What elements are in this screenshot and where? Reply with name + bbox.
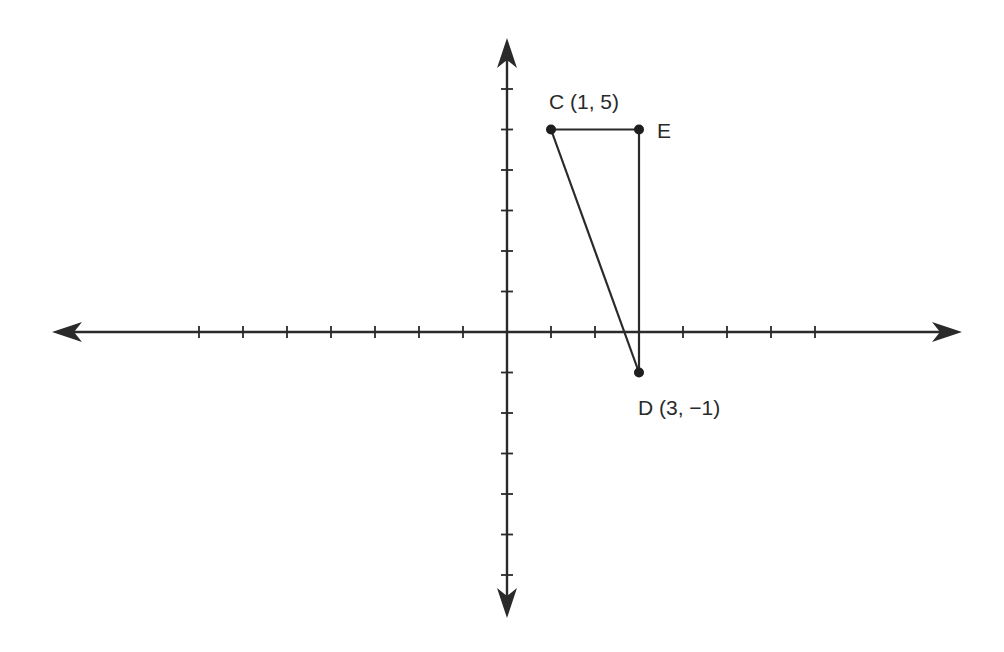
point-label-d: D (3, −1)	[638, 397, 720, 418]
axes	[70, 56, 945, 600]
point-c	[546, 125, 556, 135]
coordinate-plane	[0, 0, 1004, 652]
point-d	[634, 368, 644, 378]
point-e	[634, 125, 644, 135]
point-label-c: C (1, 5)	[549, 91, 619, 112]
point-label-e: E	[657, 120, 671, 141]
